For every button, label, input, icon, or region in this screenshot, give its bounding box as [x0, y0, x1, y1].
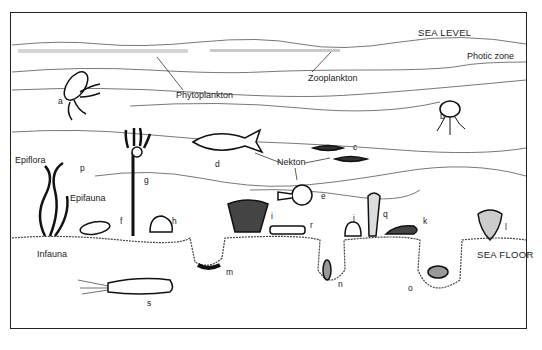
gastropod-h-icon — [150, 216, 172, 232]
phytoplankton-arrow — [157, 57, 183, 90]
trilobite-r-icon — [270, 226, 305, 234]
epifauna-label: Epifauna — [70, 194, 106, 203]
organism-label-d: d — [215, 160, 220, 169]
organism-label-h: h — [172, 217, 177, 226]
organism-label-a: a — [58, 97, 63, 106]
organism-label-j: j — [353, 214, 355, 223]
organism-label-i: i — [271, 212, 273, 221]
burrower-o-icon — [428, 266, 448, 278]
organism-label-m: m — [226, 268, 233, 277]
fish-d-icon — [193, 130, 262, 152]
organism-label-o: o — [408, 284, 413, 293]
epiflora-label: Epiflora — [15, 156, 46, 165]
organism-label-b: b — [440, 112, 445, 121]
zooplankton-arrow — [312, 52, 331, 72]
nekton-arrow-c — [305, 158, 330, 163]
sea-floor-label: SEA FLOOR — [477, 250, 534, 260]
organism-label-p: p — [80, 164, 85, 173]
bivalve-f-icon — [79, 219, 111, 236]
sponge-q-icon — [368, 193, 380, 236]
infauna-label: Infauna — [37, 250, 67, 259]
organism-label-k: k — [423, 217, 427, 226]
organism-label-f: f — [120, 217, 122, 226]
fish-c2-icon — [335, 157, 367, 162]
organism-label-g: g — [144, 176, 149, 185]
nekton-arrow-e — [295, 168, 297, 180]
organism-label-l: l — [505, 223, 507, 232]
nekton-label: Nekton — [277, 158, 306, 167]
organism-label-e: e — [321, 192, 326, 201]
zooplankton-label: Zooplankton — [308, 74, 358, 83]
jellyfish-a-icon — [59, 68, 92, 105]
sea-cucumber-s-icon — [108, 279, 173, 294]
nautiloid-e-icon — [292, 185, 312, 205]
sea-floor-line — [12, 236, 526, 288]
sea-level-label: SEA LEVEL — [418, 28, 471, 38]
starfish-k-icon — [386, 226, 417, 234]
marine-environment-illustration — [0, 0, 542, 350]
organism-label-c: c — [353, 143, 357, 152]
fan-coral-i-icon — [228, 200, 268, 232]
fish-c1-icon — [313, 146, 343, 151]
organism-label-q: q — [383, 210, 388, 219]
photic-zone-label: Photic zone — [467, 52, 514, 61]
burrower-n-icon — [323, 260, 331, 280]
phytoplankton-stipple — [18, 49, 188, 53]
organism-label-s: s — [147, 299, 151, 308]
phytoplankton-label: Phytoplankton — [176, 91, 233, 100]
zooplankton-stipple — [210, 49, 340, 52]
anemone-l-icon — [478, 210, 502, 240]
organism-label-r: r — [310, 221, 313, 230]
seaweed-p-icon — [40, 163, 68, 236]
sea-level-line — [12, 37, 526, 47]
organism-label-n: n — [338, 280, 343, 289]
brachiopod-j-icon — [345, 222, 361, 236]
